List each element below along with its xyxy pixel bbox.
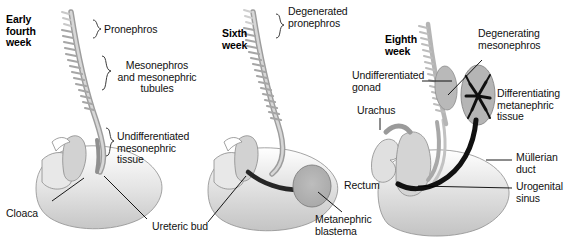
brace-pronephros	[93, 20, 101, 38]
label-urachus: Urachus	[357, 105, 395, 117]
stage-title-eighth-week: Eighth week	[385, 34, 417, 57]
stage-title-sixth-week: Sixth week	[222, 28, 247, 51]
stage-title-early-fourth-week: Early fourth week	[6, 14, 36, 49]
metanephric-blastema-shape	[293, 165, 331, 207]
label-rectum: Rectum	[344, 180, 380, 192]
urogenital-development-figure: Early fourth week Pronephros Mesonephros…	[0, 0, 566, 243]
label-ureteric-bud: Ureteric bud	[152, 221, 208, 233]
label-pronephros: Pronephros	[104, 24, 157, 36]
label-undifferentiated-mesonephric-tissue: Undifferentiated mesonephric tissue	[117, 131, 189, 166]
degenerated-pronephros-tubules	[244, 10, 253, 24]
pronephros-tubules	[62, 12, 71, 26]
label-cloaca: Cloaca	[6, 208, 38, 220]
urachus-shape	[386, 126, 410, 132]
label-mesonephros-and-mesonephric-tubules: Mesonephros and mesonephric tubules	[114, 60, 200, 95]
panel-1-artwork	[36, 12, 162, 229]
label-undifferentiated-gonad: Undifferentiated gonad	[352, 70, 424, 93]
label-degenerating-mesonephros: Degenerating mesonephros	[478, 28, 541, 51]
label-degenerated-pronephros: Degenerated pronephros	[288, 6, 348, 29]
brace-degenerated-pronephros	[276, 14, 284, 38]
label-differentiating-metanephric-tissue: Differentiating metanephric tissue	[497, 88, 560, 123]
label-urogenital-sinus: Urogenital sinus	[516, 181, 563, 204]
label-mullerian-duct: Müllerian duct	[516, 152, 558, 175]
label-metanephric-blastema: Metanephric blastema	[315, 214, 372, 237]
brace-mesonephros	[102, 56, 111, 90]
ureteric-bud-1	[97, 140, 99, 172]
